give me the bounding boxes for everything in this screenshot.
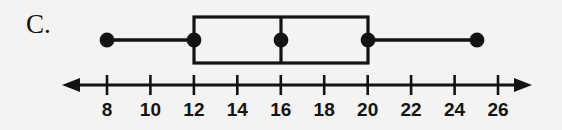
axis-tick-label: 8 bbox=[102, 100, 113, 119]
marker-median bbox=[274, 33, 289, 48]
boxplot-group bbox=[100, 17, 485, 63]
axis-tick-label: 12 bbox=[183, 100, 204, 119]
axis-tick-label: 24 bbox=[444, 100, 465, 119]
axis-tick-label: 18 bbox=[314, 100, 335, 119]
axis-arrow-right bbox=[514, 78, 532, 92]
marker-q1 bbox=[187, 33, 202, 48]
axis-tick-label: 14 bbox=[227, 100, 248, 119]
number-line-axis bbox=[62, 75, 532, 95]
marker-q3 bbox=[361, 33, 376, 48]
marker-maximum bbox=[470, 33, 485, 48]
axis-tick-label: 26 bbox=[487, 100, 508, 119]
axis-tick-label: 10 bbox=[140, 100, 161, 119]
axis-tick-label: 16 bbox=[270, 100, 291, 119]
axis-tick-label: 20 bbox=[357, 100, 378, 119]
axis-arrow-left bbox=[62, 78, 80, 92]
marker-minimum bbox=[100, 33, 115, 48]
boxplot-figure: C. bbox=[0, 0, 562, 130]
axis-tick-label: 22 bbox=[401, 100, 422, 119]
